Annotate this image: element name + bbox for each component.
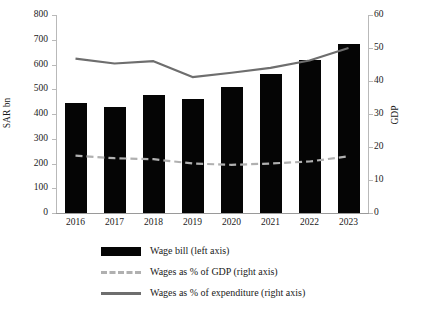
expenditure-percent-line	[76, 48, 349, 77]
chart-container: SAR bn GDP 0100200300400500600700800 010…	[0, 0, 422, 310]
right-tick-mark	[369, 213, 373, 214]
left-tick-label: 300	[0, 134, 48, 144]
right-tick-mark	[369, 15, 373, 16]
solid-line-swatch	[101, 288, 141, 298]
right-tick-mark	[369, 48, 373, 49]
right-tick-mark	[369, 114, 373, 115]
right-tick-label: 60	[374, 10, 384, 20]
x-axis-tick-label: 2019	[173, 217, 212, 228]
gdp-percent-line	[76, 156, 349, 165]
legend-label: Wages as % of GDP (right axis)	[150, 266, 278, 278]
legend-label: Wages as % of expenditure (right axis)	[150, 287, 305, 299]
line-series	[56, 15, 368, 213]
right-tick-label: 10	[374, 175, 384, 185]
x-axis-tick-label: 2023	[329, 217, 368, 228]
right-tick-label: 20	[374, 142, 384, 152]
left-tick-label: 600	[0, 60, 48, 70]
left-tick-mark	[52, 213, 56, 214]
right-tick-mark	[369, 81, 373, 82]
x-axis-tick-label: 2018	[134, 217, 173, 228]
x-axis-tick-label: 2017	[95, 217, 134, 228]
legend-item[interactable]: Wage bill (left axis)	[0, 240, 422, 261]
left-tick-label: 400	[0, 109, 48, 119]
right-tick-label: 30	[374, 109, 384, 119]
solid-bar-swatch	[101, 246, 141, 256]
x-axis-tick-label: 2016	[56, 217, 95, 228]
left-tick-label: 800	[0, 10, 48, 20]
left-tick-label: 0	[0, 208, 48, 218]
legend-item[interactable]: Wages as % of expenditure (right axis)	[0, 282, 422, 303]
dashed-line-swatch	[101, 267, 141, 277]
x-axis-line	[56, 213, 369, 214]
x-axis-tick-label: 2021	[251, 217, 290, 228]
legend-label: Wage bill (left axis)	[150, 245, 229, 257]
left-tick-label: 100	[0, 183, 48, 193]
right-tick-label: 40	[374, 76, 384, 86]
right-tick-label: 50	[374, 43, 384, 53]
left-tick-label: 500	[0, 84, 48, 94]
plot-area	[56, 15, 368, 213]
chart-legend: Wage bill (left axis)Wages as % of GDP (…	[0, 240, 422, 303]
left-tick-label: 200	[0, 159, 48, 169]
right-tick-mark	[369, 180, 373, 181]
right-axis-title: GDP	[390, 105, 400, 124]
left-tick-label: 700	[0, 35, 48, 45]
x-axis-tick-label: 2020	[212, 217, 251, 228]
right-tick-label: 0	[374, 208, 379, 218]
legend-item[interactable]: Wages as % of GDP (right axis)	[0, 261, 422, 282]
right-tick-mark	[369, 147, 373, 148]
x-axis-tick-label: 2022	[290, 217, 329, 228]
